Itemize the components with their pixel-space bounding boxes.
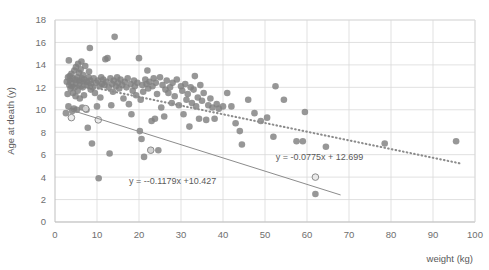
- data-point: [89, 140, 96, 147]
- x-tick-label: 30: [176, 229, 187, 240]
- dotted-trendline-equation-label: y = -0.0775x + 12.699: [276, 152, 364, 162]
- data-point: [97, 94, 104, 101]
- data-point: [300, 138, 307, 145]
- data-point: [228, 103, 235, 110]
- data-point: [203, 117, 210, 124]
- data-point: [136, 55, 143, 62]
- data-point: [196, 115, 203, 122]
- highlighted-data-point: [82, 105, 89, 112]
- data-point: [270, 133, 277, 140]
- data-point: [184, 91, 191, 98]
- data-point: [272, 83, 279, 90]
- x-tick-label: 40: [218, 229, 229, 240]
- data-point: [153, 80, 160, 87]
- y-tick-label: 6: [41, 149, 46, 160]
- data-point: [86, 68, 93, 75]
- y-tick-label: 8: [41, 127, 46, 138]
- highlighted-data-point: [147, 147, 154, 154]
- data-point: [161, 113, 168, 120]
- highlighted-data-point: [312, 174, 319, 181]
- data-point: [232, 120, 239, 127]
- data-point: [120, 95, 127, 102]
- y-tick-label: 12: [35, 82, 46, 93]
- x-tick-label: 100: [467, 229, 483, 240]
- data-point: [171, 93, 178, 100]
- data-point: [154, 91, 161, 98]
- x-tick-label: 60: [302, 229, 313, 240]
- data-point: [183, 96, 190, 103]
- y-tick-label: 16: [35, 37, 46, 48]
- solid-trendline-equation-label: y = --0.1179x +10.427: [129, 176, 216, 186]
- data-point: [192, 73, 199, 80]
- data-point: [144, 67, 151, 74]
- data-point: [163, 77, 170, 84]
- data-point: [157, 74, 164, 81]
- data-point: [453, 138, 460, 145]
- data-point: [180, 111, 187, 118]
- data-point: [211, 115, 218, 122]
- data-point: [64, 91, 71, 98]
- data-point: [323, 144, 330, 151]
- y-axis-tick-labels: 024681012141618: [35, 14, 46, 227]
- data-point: [63, 110, 70, 117]
- data-point: [281, 96, 288, 103]
- data-point: [245, 96, 252, 103]
- data-point: [126, 101, 133, 108]
- y-tick-label: 2: [41, 194, 46, 205]
- x-tick-label: 80: [386, 229, 397, 240]
- data-point: [111, 34, 118, 41]
- data-point: [381, 140, 388, 147]
- x-tick-label: 10: [92, 229, 103, 240]
- data-point: [293, 138, 300, 145]
- data-point: [138, 136, 145, 143]
- data-point: [92, 90, 99, 97]
- y-tick-label: 14: [35, 59, 46, 70]
- data-point: [94, 103, 101, 110]
- data-point: [237, 128, 244, 135]
- y-tick-label: 0: [41, 216, 46, 227]
- x-tick-label: 50: [260, 229, 271, 240]
- data-point: [82, 63, 89, 70]
- x-tick-label: 90: [428, 229, 439, 240]
- data-point: [197, 82, 204, 89]
- x-axis-title: weight (kg): [426, 253, 473, 264]
- y-axis-title: Age at death (y): [5, 87, 16, 155]
- data-point: [108, 102, 115, 109]
- highlighted-data-point: [68, 114, 75, 121]
- data-point: [95, 175, 102, 182]
- data-point: [158, 104, 165, 111]
- x-tick-label: 0: [52, 229, 57, 240]
- data-point: [165, 90, 172, 97]
- data-point: [207, 95, 214, 102]
- x-tick-label: 70: [344, 229, 355, 240]
- data-point: [239, 141, 246, 148]
- data-point: [128, 111, 135, 118]
- data-point: [152, 115, 159, 122]
- data-point: [124, 75, 131, 82]
- y-tick-label: 10: [35, 104, 46, 115]
- data-point: [220, 103, 227, 110]
- data-point: [264, 114, 271, 121]
- data-point: [200, 90, 207, 97]
- y-tick-label: 4: [41, 172, 46, 183]
- data-point: [312, 191, 319, 198]
- x-tick-label: 20: [134, 229, 145, 240]
- data-point: [84, 124, 91, 131]
- data-point: [190, 86, 197, 93]
- data-point: [182, 81, 189, 88]
- data-point: [155, 147, 162, 154]
- x-axis-tick-labels: 0102030405060708090100: [52, 229, 483, 240]
- data-point: [87, 45, 94, 52]
- data-point: [179, 87, 186, 94]
- data-point: [186, 123, 193, 130]
- y-tick-label: 18: [35, 14, 46, 25]
- data-point: [199, 98, 206, 105]
- data-point: [66, 57, 73, 64]
- data-point: [224, 90, 231, 97]
- data-point: [141, 154, 148, 161]
- data-point: [106, 150, 113, 157]
- data-point: [174, 76, 181, 83]
- scatter-chart: 0102030405060708090100 024681012141618 y…: [0, 0, 489, 270]
- data-point: [81, 92, 88, 99]
- chart-canvas: 0102030405060708090100 024681012141618 y…: [0, 0, 489, 270]
